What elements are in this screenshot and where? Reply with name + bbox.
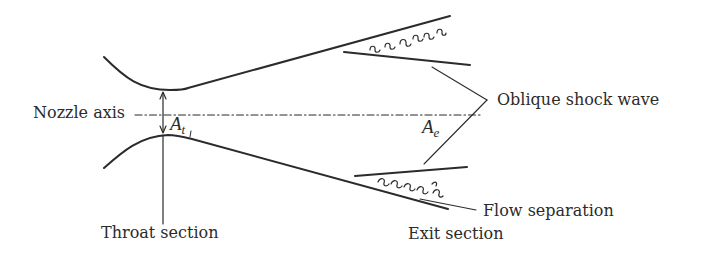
shock-leader-upper [432,67,487,100]
throat-area-symbol: At [170,114,185,136]
upper-separation-vortices [370,29,446,52]
throat-area-sub: t [182,122,186,137]
throat-area-base: A [170,113,182,134]
exit-area-base: A [422,116,434,137]
upper-nozzle-wall [104,16,450,90]
exit-area-sub: e [434,125,440,140]
nozzle-axis-label: Nozzle axis [33,105,125,121]
oblique-shock-wave-label: Oblique shock wave [497,92,659,108]
nozzle-drawing [0,0,706,259]
flow-separation-label: Flow separation [483,203,614,219]
upper-oblique-shock [344,52,470,65]
exit-area-symbol: Ae [422,117,439,139]
exit-section-label: Exit section [408,226,503,242]
throat-section-label: Throat section [101,225,218,241]
nozzle-diagram: Nozzle axis At Ae Oblique shock wave Thr… [0,0,706,259]
lower-separation-vortices [378,179,443,197]
lower-oblique-shock [355,167,467,176]
